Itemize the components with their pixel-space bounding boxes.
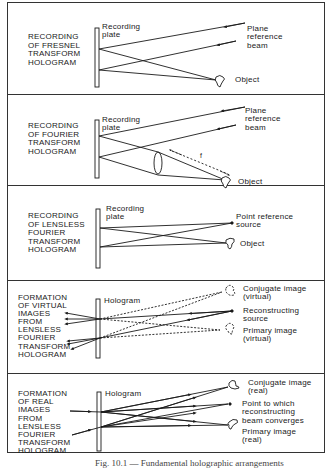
plane-reference-beam-label: Plane reference beam <box>245 107 281 132</box>
object-label: Object <box>240 240 264 248</box>
recording-plate-label: Recording plate <box>106 205 144 222</box>
conjugate-image-real-label: Conjugate image (real) <box>248 379 311 396</box>
converge-point-label: Point to which reconstructing beam conve… <box>242 400 304 425</box>
point-reference-source-label: Point reference source <box>236 213 293 230</box>
recording-plate-label: Recording plate <box>102 116 140 133</box>
primary-image-real-label: Primary image (real) <box>242 428 296 445</box>
hologram-label: Hologram <box>105 390 141 398</box>
plane-reference-beam-label: Plane reference beam <box>247 25 283 50</box>
hologram-label: Hologram <box>104 297 140 305</box>
object-label: Object <box>235 76 259 84</box>
reconstructing-source-label: Reconstructing source <box>243 307 299 324</box>
panel-4-title: FORMATION OF VIRTUAL IMAGES FROM LENSLES… <box>18 294 70 359</box>
primary-image-virtual-label: Primary image (virtual) <box>243 327 297 344</box>
figure-caption: Fig. 10.1 — Fundamental holographic arra… <box>95 458 284 468</box>
panel-3-title: RECORDING OF LENSLESS FOURIER TRANSFORM … <box>28 212 85 255</box>
panel-5-title: FORMATION OF REAL IMAGES FROM LENSLESS F… <box>18 390 70 456</box>
panel-2-title: RECORDING OF FOURIER TRANSFORM HOLOGRAM <box>28 122 80 156</box>
recording-plate-1 <box>95 28 99 87</box>
object-label: Object <box>238 178 262 186</box>
recording-plate-label: Recording plate <box>102 23 140 40</box>
panel-1-title: RECORDING OF FRESNEL TRANSFORM HOLOGRAM <box>28 33 80 67</box>
focal-length-label: f <box>200 152 202 160</box>
conjugate-image-virtual-label: Conjugate image (virtual) <box>243 285 306 302</box>
